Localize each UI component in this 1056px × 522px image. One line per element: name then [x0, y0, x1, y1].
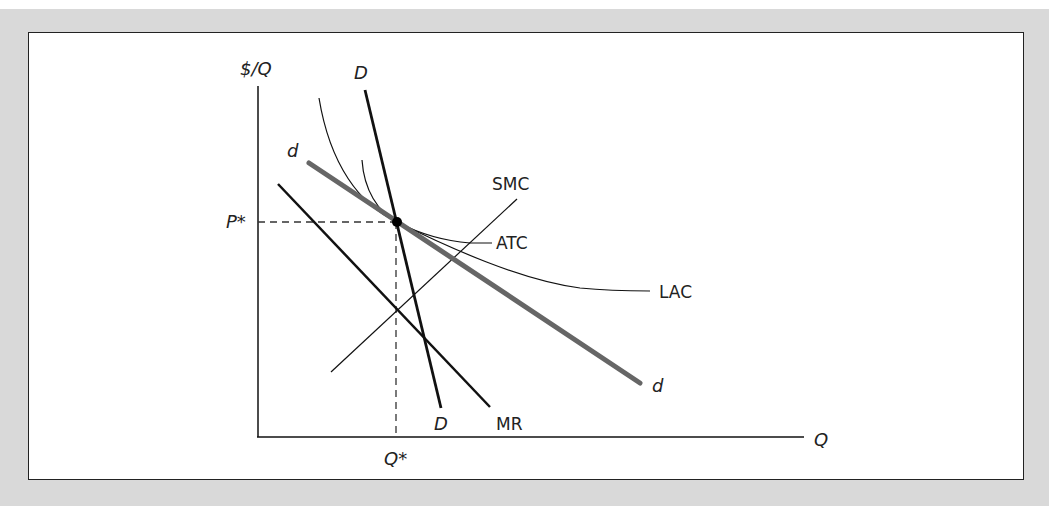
demand-curve-D: [365, 90, 441, 408]
mr-curve: [278, 184, 490, 407]
D-top-label: D: [354, 62, 368, 83]
q-star-label: Q*: [384, 448, 407, 469]
mr-label: MR: [496, 414, 523, 434]
p-star-label: P*: [226, 211, 246, 232]
monopolistic-competition-diagram: $/Q Q P* Q* D D d d SMC ATC LAC MR: [0, 0, 1056, 522]
x-axis-label: Q: [814, 429, 828, 450]
D-bottom-label: D: [434, 413, 448, 434]
firm-demand-curve-d: [309, 163, 640, 383]
y-axis-label: $/Q: [240, 58, 272, 79]
d-bottom-label: d: [652, 375, 664, 396]
atc-curve: [362, 160, 492, 243]
atc-label: ATC: [496, 233, 528, 253]
lac-curve: [319, 98, 650, 291]
equilibrium-point: [392, 217, 402, 227]
lac-label: LAC: [659, 282, 692, 302]
smc-label: SMC: [492, 174, 529, 194]
d-top-label: d: [287, 140, 299, 161]
